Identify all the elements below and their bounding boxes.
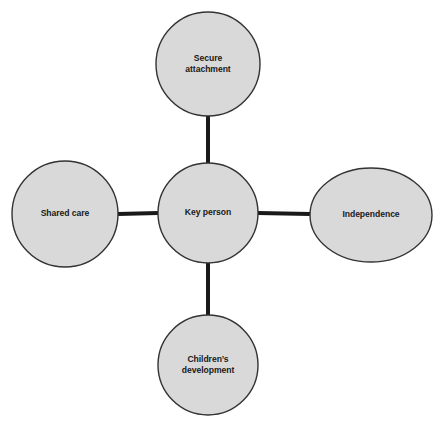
- connector-key-person-to-shared-care: [118, 213, 158, 214]
- diagram-canvas: Secure attachment Shared care Independen…: [0, 0, 443, 427]
- diagram-graphics: [0, 0, 443, 427]
- node-shape-group: [12, 12, 432, 415]
- node-shape-independence[interactable]: [310, 168, 432, 262]
- node-shape-shared-care[interactable]: [12, 161, 118, 267]
- connector-key-person-to-independence: [258, 213, 310, 214]
- node-shape-key-person[interactable]: [158, 163, 258, 263]
- node-shape-secure-attachment[interactable]: [156, 12, 260, 116]
- node-shape-childrens-development[interactable]: [158, 315, 258, 415]
